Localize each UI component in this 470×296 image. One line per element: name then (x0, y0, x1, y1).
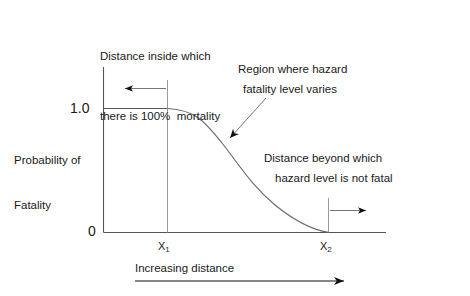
figure-canvas: Distance inside which there is 100% mort… (0, 0, 470, 296)
x-tick-label-x2-sub: 2 (327, 245, 331, 254)
x-tick-label-x1: X1 (158, 236, 170, 258)
y-axis-label-line1: Probability of (14, 153, 80, 168)
region-callout-leader (230, 98, 266, 138)
y-tick-label-top: 1.0 (70, 99, 89, 117)
annotation-inside-distance: Distance inside which there is 100% mort… (100, 6, 220, 166)
x-tick-label-x2: X2 (320, 236, 332, 258)
annotation-inside-distance-line2: there is 100% mortality (100, 106, 220, 126)
y-axis-label: Probability of Fatality (14, 123, 80, 243)
annotation-beyond-line1: Distance beyond which (264, 148, 382, 168)
annotation-inside-distance-line1: Distance inside which (100, 46, 220, 66)
y-tick-label-bottom: 0 (88, 222, 96, 240)
x-axis-caption: Increasing distance (135, 258, 234, 278)
x-tick-label-x1-sub: 1 (165, 245, 169, 254)
annotation-region-line1: Region where hazard (238, 59, 347, 79)
annotation-beyond-line2: hazard level is not fatal (275, 168, 393, 188)
annotation-region-line2: fatality level varies (243, 79, 337, 99)
y-axis-label-line2: Fatality (14, 198, 80, 213)
